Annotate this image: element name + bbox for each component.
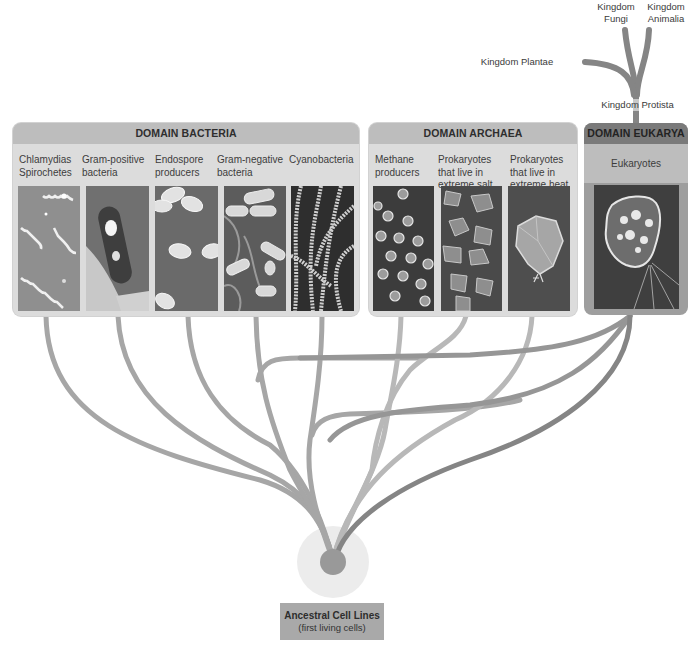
label-line: Gram-positive (82, 154, 144, 165)
label-line: producers (375, 167, 419, 178)
label-line: Gram-negative (217, 154, 283, 165)
micrograph-endospore (155, 186, 218, 311)
kingdom-animalia-line1: Kingdom (647, 1, 685, 12)
micrograph-methane-producers (373, 186, 434, 311)
ancestral-cell-lines-label: Ancestral Cell Lines (first living cells… (280, 603, 384, 640)
domain-archaea-title: DOMAIN ARCHAEA (369, 123, 577, 144)
root-subtitle: (first living cells) (280, 622, 384, 633)
micrograph-gram-positive (86, 186, 149, 311)
label-line: bacteria (217, 167, 253, 178)
spirochete-icon (18, 186, 80, 311)
micrograph-extreme-heat (508, 186, 570, 311)
label-line: Prokaryotes (510, 154, 563, 165)
label-line: Chlamydias (19, 154, 71, 165)
label-line: producers (155, 167, 199, 178)
micrograph-cyanobacteria (291, 186, 354, 311)
root-core (320, 549, 346, 575)
group-methane-label: Methaneproducers (375, 154, 419, 179)
halophile-icon (441, 186, 502, 311)
kingdom-animalia-line2: Animalia (648, 13, 684, 24)
kingdom-plantae-label: Kingdom Plantae (462, 56, 572, 68)
kingdom-fungi-label: Kingdom Fungi (596, 1, 636, 24)
amoeba-cell-icon (594, 185, 679, 309)
label-line: that live in (438, 167, 483, 178)
domain-eukarya-title: DOMAIN EUKARYA (584, 123, 688, 144)
endospore-icon (155, 186, 218, 311)
rod-bacterium-icon (86, 186, 149, 311)
micrograph-spirochetes (18, 186, 80, 311)
label-line: Methane (375, 154, 414, 165)
root-title: Ancestral Cell Lines (280, 610, 384, 621)
eukarya-branches (300, 316, 630, 440)
group-eukaryotes-label: Eukaryotes (584, 158, 688, 171)
thermophile-cell-icon (508, 186, 570, 311)
group-chlamydias-label: ChlamydiasSpirochetes (19, 154, 72, 179)
micrograph-eukaryote-protist (594, 185, 679, 309)
micrograph-gram-negative (224, 186, 286, 311)
bacteria-branches (46, 316, 520, 560)
cyanobacteria-filaments-icon (291, 186, 354, 311)
label-line: Cyanobacteria (289, 154, 353, 165)
group-cyanobacteria-label: Cyanobacteria (289, 154, 353, 167)
domain-bacteria-title: DOMAIN BACTERIA (13, 123, 359, 144)
micrograph-extreme-salt (441, 186, 502, 311)
cocci-cluster-icon (373, 186, 434, 311)
kingdom-protista-label: Kingdom Protista (590, 99, 685, 111)
group-gram-negative-label: Gram-negativebacteria (217, 154, 283, 179)
kingdom-animalia-label: Kingdom Animalia (642, 1, 690, 24)
group-endospore-label: Endosporeproducers (155, 154, 203, 179)
kingdom-fungi-line1: Kingdom (597, 1, 635, 12)
label-line: Prokaryotes (438, 154, 491, 165)
kingdom-fungi-line2: Fungi (604, 13, 628, 24)
gram-negative-icon (224, 186, 286, 311)
label-line: bacteria (82, 167, 118, 178)
label-line: that live in (510, 167, 555, 178)
label-line: Endospore (155, 154, 203, 165)
group-gram-positive-label: Gram-positivebacteria (82, 154, 144, 179)
label-line: Spirochetes (19, 167, 72, 178)
